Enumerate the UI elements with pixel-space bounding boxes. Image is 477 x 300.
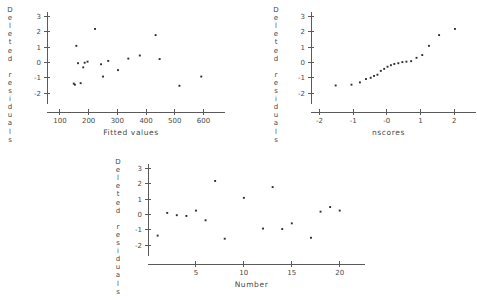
y-tick-label: 2 bbox=[37, 28, 41, 36]
data-point bbox=[262, 228, 264, 230]
plot-fitted-values: Deletedresiduals 3210-1-2100200300400500… bbox=[0, 0, 230, 150]
y-axis-label-letter: D bbox=[115, 158, 120, 166]
y-axis-label-letter: u bbox=[116, 263, 120, 271]
data-point bbox=[74, 84, 76, 86]
y-axis-label-letter: e bbox=[274, 47, 278, 55]
x-axis-title: nscores bbox=[372, 128, 405, 137]
data-point bbox=[393, 63, 395, 65]
data-point bbox=[272, 186, 274, 188]
y-tick-label: 3 bbox=[301, 13, 305, 21]
y-axis-label-letter: i bbox=[275, 95, 277, 103]
y-axis-label-letter: l bbox=[9, 22, 11, 30]
y-axis-label-letter: t bbox=[275, 38, 278, 46]
plot-area-number: 3210-1-25101520Number bbox=[135, 164, 365, 289]
y-axis-label-letter: s bbox=[274, 87, 278, 95]
y-axis-label-letter: s bbox=[116, 239, 120, 247]
y-tick-label: 0 bbox=[37, 59, 41, 67]
plot-fitted-values-svg: Deletedresiduals 3210-1-2100200300400500… bbox=[0, 0, 230, 150]
y-axis-label-letter: a bbox=[274, 119, 278, 127]
y-axis-label-letter: e bbox=[116, 166, 120, 174]
data-point bbox=[127, 58, 129, 60]
y-axis-label-letter: e bbox=[8, 47, 12, 55]
y-axis-label-letter: e bbox=[116, 182, 120, 190]
data-point bbox=[77, 62, 79, 64]
data-point bbox=[365, 78, 367, 80]
x-tick-label: 10 bbox=[239, 269, 248, 277]
y-axis-label-number: Deletedresiduals bbox=[115, 158, 120, 296]
y-axis-label-letter: e bbox=[8, 79, 12, 87]
y-tick-label: 2 bbox=[138, 180, 142, 188]
data-point bbox=[200, 76, 202, 78]
x-tick-label: 1 bbox=[418, 117, 422, 125]
y-axis-label-letter: l bbox=[117, 280, 119, 288]
data-point bbox=[410, 60, 412, 62]
data-point bbox=[373, 75, 375, 77]
plot-area-fitted: 3210-1-2100200300400500600Fitted values bbox=[34, 12, 225, 137]
data-point bbox=[397, 62, 399, 64]
data-point bbox=[100, 63, 102, 65]
plot-area-nscores: 3210-1-2-2-1-012nscores bbox=[298, 12, 476, 137]
data-point bbox=[166, 212, 168, 214]
y-axis-label-letter: e bbox=[8, 30, 12, 38]
data-point bbox=[416, 57, 418, 59]
y-tick-label: -2 bbox=[34, 90, 41, 98]
data-point bbox=[401, 61, 403, 63]
y-axis-label-letter: l bbox=[275, 128, 277, 136]
x-tick-label: 400 bbox=[139, 117, 152, 125]
plot-number-svg: Deletedresiduals 3210-1-25101520Number bbox=[108, 152, 368, 300]
y-axis-label-letter: e bbox=[274, 30, 278, 38]
data-point bbox=[421, 54, 423, 56]
y-axis-label-fitted: Deletedresiduals bbox=[7, 6, 12, 144]
data-point bbox=[102, 76, 104, 78]
y-tick-label: 1 bbox=[301, 44, 305, 52]
y-axis-label-letter: e bbox=[274, 14, 278, 22]
y-axis-label-letter: u bbox=[274, 111, 278, 119]
data-point bbox=[178, 85, 180, 87]
y-axis-label-letter: d bbox=[116, 207, 120, 215]
x-axis-title: Fitted values bbox=[103, 128, 159, 137]
data-point bbox=[380, 70, 382, 72]
data-point bbox=[224, 238, 226, 240]
x-axis-title: Number bbox=[235, 280, 269, 289]
y-tick-label: -1 bbox=[135, 226, 142, 234]
y-axis-label-letter: D bbox=[7, 6, 12, 14]
y-axis-label-letter: i bbox=[9, 95, 11, 103]
y-axis-label-letter: e bbox=[116, 199, 120, 207]
y-tick-label: 3 bbox=[138, 165, 142, 173]
data-point bbox=[82, 66, 84, 68]
x-tick-label: -2 bbox=[316, 117, 323, 125]
data-point bbox=[291, 222, 293, 224]
x-tick-label: 500 bbox=[168, 117, 181, 125]
y-axis-label-letter: e bbox=[116, 231, 120, 239]
data-point bbox=[359, 81, 361, 83]
data-point bbox=[281, 228, 283, 230]
y-axis-label-letter: t bbox=[9, 38, 12, 46]
y-tick-label: 0 bbox=[138, 211, 142, 219]
y-tick-label: -2 bbox=[298, 90, 305, 98]
data-point bbox=[339, 210, 341, 212]
y-axis-label-letter: s bbox=[8, 87, 12, 95]
y-axis-label-letter: a bbox=[116, 271, 120, 279]
x-tick-label: 15 bbox=[287, 269, 296, 277]
plot-number: Deletedresiduals 3210-1-25101520Number bbox=[108, 152, 368, 300]
data-point bbox=[438, 34, 440, 36]
data-point bbox=[370, 77, 372, 79]
y-axis-label-letter: i bbox=[117, 247, 119, 255]
data-point bbox=[428, 45, 430, 47]
y-axis-label-letter: d bbox=[116, 255, 120, 263]
y-axis-label-letter: D bbox=[273, 6, 278, 14]
data-point bbox=[405, 61, 407, 63]
data-point bbox=[335, 85, 337, 87]
y-axis-label-letter: s bbox=[274, 136, 278, 144]
y-axis-label-letter: d bbox=[274, 55, 278, 63]
y-axis-label-letter: l bbox=[9, 128, 11, 136]
data-point bbox=[329, 206, 331, 208]
y-axis-label-letter: d bbox=[8, 55, 12, 63]
y-axis-label-letter: d bbox=[274, 103, 278, 111]
data-point bbox=[351, 84, 353, 86]
y-tick-label: -1 bbox=[298, 74, 305, 82]
x-tick-label: 600 bbox=[197, 117, 210, 125]
plot-nscores-svg: Deletedresiduals 3210-1-2-2-1-012nscores bbox=[238, 0, 477, 150]
data-point bbox=[139, 55, 141, 57]
y-axis-label-letter: u bbox=[8, 111, 12, 119]
